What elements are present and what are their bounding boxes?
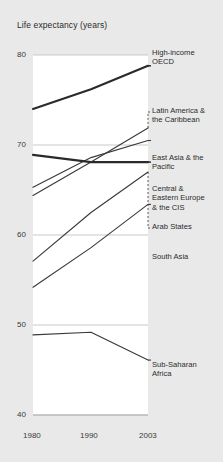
y-axis-tick-80: 80 — [17, 50, 26, 59]
y-axis-tick-70: 70 — [17, 140, 26, 149]
series-label-south-asia: South Asia — [152, 252, 218, 261]
series-label-latin-america-caribbean: Latin America & the Caribbean — [152, 106, 218, 125]
x-axis-tick-2003: 2003 — [139, 431, 157, 440]
series-label-arab-states: Arab States — [152, 222, 218, 231]
y-axis-tick-50: 50 — [17, 320, 26, 329]
x-axis-tick-1990: 1990 — [80, 431, 98, 440]
series-label-east-asia-pacific: East Asia & the Pacific — [152, 153, 218, 172]
series-label-sub-saharan-africa: Sub-Saharan Africa — [152, 360, 218, 379]
series-label-central-eastern-europe-cis: Central & Eastern Europe & the CIS — [152, 184, 218, 212]
y-axis-tick-60: 60 — [17, 230, 26, 239]
series-label-high-income-oecd: High-income OECD — [152, 48, 218, 67]
y-axis-tick-40: 40 — [17, 410, 26, 419]
chart-figure: Life expectancy (years) 80 70 60 50 40 1… — [0, 0, 223, 462]
x-axis-tick-1980: 1980 — [23, 431, 41, 440]
